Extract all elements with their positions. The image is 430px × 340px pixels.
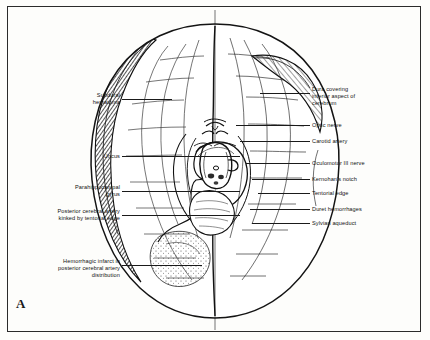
label-subdural-hematoma: Subdural hematoma (62, 92, 120, 106)
leader-line (122, 99, 172, 100)
leader-line (260, 93, 310, 94)
label-dura-covering: Dura covering inferior aspect of cerebru… (312, 86, 412, 108)
leader-line (122, 191, 240, 192)
label-tentorial-edge: Tentorial edge (312, 190, 412, 197)
leader-line (236, 125, 310, 126)
label-hemorrhagic-infarct: Hemorrhagic infarct in posterior cerebra… (28, 258, 120, 280)
leader-line (250, 209, 310, 210)
label-carotid-artery: Carotid artery (312, 138, 412, 145)
leader-line (122, 215, 240, 216)
figure-border (7, 6, 421, 332)
label-sylvian-aqueduct: Sylvian aqueduct (312, 220, 412, 227)
label-parahippocampal-gyrus: Parahippocampal gyrus (44, 184, 120, 198)
leader-line (246, 163, 310, 164)
label-optic-nerve: Optic nerve (312, 122, 412, 129)
panel-letter: A (16, 296, 25, 312)
label-duret-hemorrhages: Duret hemorrhages (312, 206, 412, 213)
leader-line (258, 193, 310, 194)
label-posterior-cerebral-artery: Posterior cerebral artery kinked by tent… (18, 208, 120, 222)
leader-line (240, 141, 310, 142)
leader-line (122, 156, 240, 157)
label-kernohans-notch: Kernohan's notch (312, 176, 412, 183)
leader-line (252, 179, 310, 180)
leader-line (122, 265, 202, 266)
figure-root: Subdural hematoma Uncus Parahippocampal … (0, 0, 430, 340)
label-uncus: Uncus (84, 153, 120, 160)
leader-line (252, 223, 310, 224)
label-oculomotor-nerve: Oculomotor III nerve (312, 160, 412, 167)
